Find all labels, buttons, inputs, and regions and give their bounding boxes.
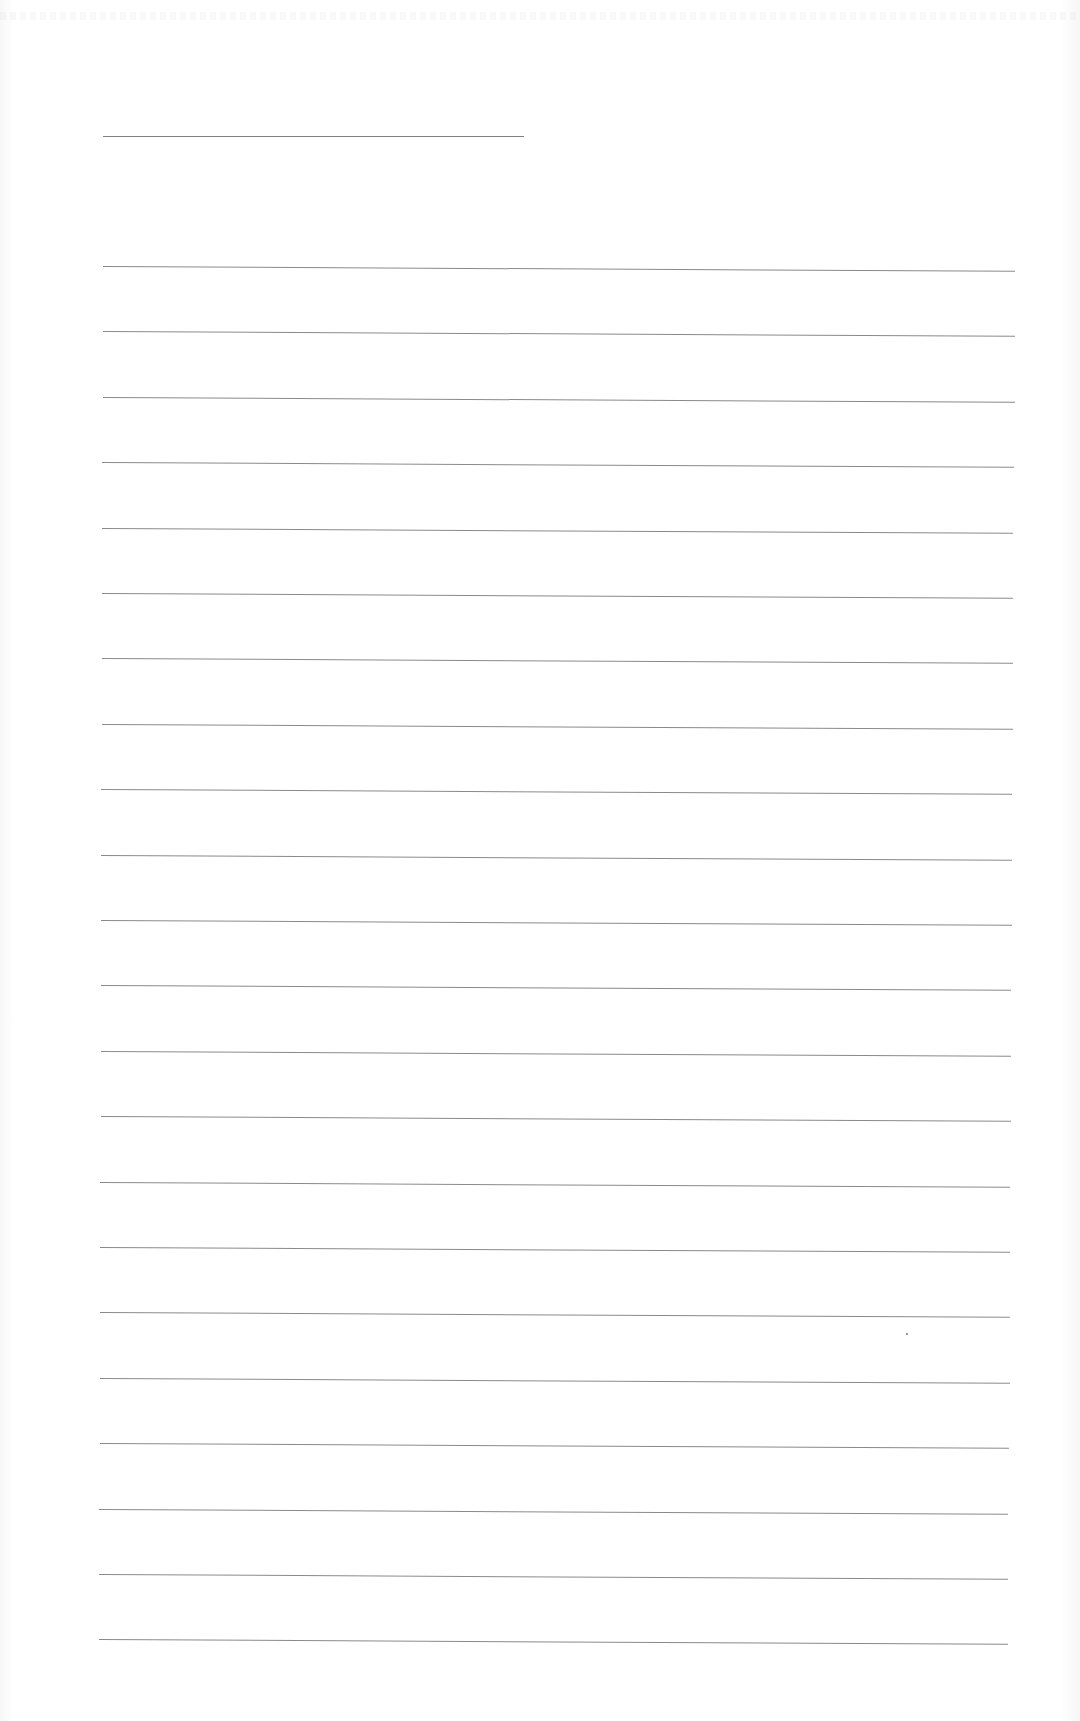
ruled-line xyxy=(103,331,1015,337)
ruled-line xyxy=(100,1182,1010,1188)
ruled-line xyxy=(101,855,1012,861)
ruled-line xyxy=(100,1443,1009,1449)
ruled-line xyxy=(103,397,1015,403)
ruled-line xyxy=(100,1312,1010,1318)
ruled-line xyxy=(103,266,1015,272)
ruled-line xyxy=(101,920,1012,926)
ruled-line xyxy=(100,1378,1010,1384)
ruled-line xyxy=(101,985,1011,991)
lined-paper-page xyxy=(0,0,1080,1721)
bleed-through-text xyxy=(0,12,1080,20)
ruled-line xyxy=(102,724,1013,730)
ruled-line xyxy=(102,658,1013,664)
ruled-line xyxy=(101,1116,1011,1122)
ruled-line xyxy=(101,789,1012,795)
paper-speck xyxy=(906,1333,908,1335)
ruled-line xyxy=(99,1509,1008,1515)
header-rule xyxy=(103,136,524,137)
ruled-line xyxy=(100,1247,1010,1253)
ruled-line xyxy=(99,1639,1008,1645)
ruled-line xyxy=(102,528,1013,534)
ruled-line xyxy=(99,1574,1008,1580)
ruled-line xyxy=(102,593,1013,599)
ruled-line xyxy=(102,462,1014,468)
ruled-line xyxy=(101,1051,1011,1057)
